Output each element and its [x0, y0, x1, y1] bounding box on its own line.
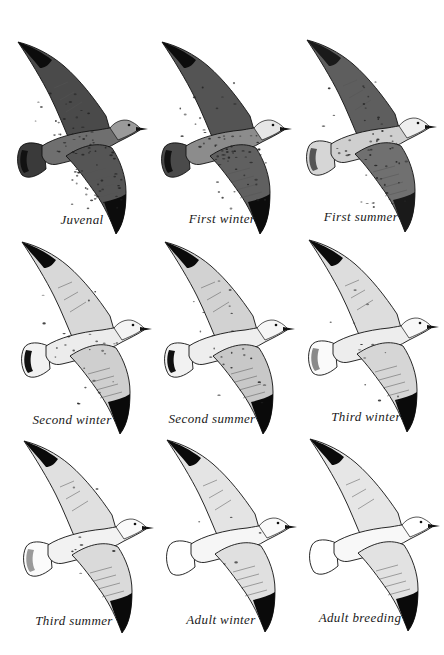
- plumage-caption: First winter: [189, 211, 256, 227]
- gull-illustration-second-summer: Second summer: [161, 238, 306, 438]
- plumage-caption: First summer: [324, 209, 399, 225]
- gull-silhouette-icon: [303, 36, 444, 236]
- gull-illustration-juvenal: Juvenal: [14, 38, 159, 238]
- gull-silhouette-icon: [158, 38, 303, 238]
- gull-illustration-adult-breeding: Adult breeding: [306, 435, 444, 635]
- gull-illustration-adult-winter: Adult winter: [163, 436, 308, 636]
- plumage-caption: Third summer: [35, 613, 113, 629]
- gull-illustration-third-winter: Third winter: [305, 236, 444, 436]
- gull-silhouette-icon: [305, 236, 444, 436]
- plumage-caption: Adult winter: [186, 612, 255, 628]
- gull-silhouette-icon: [161, 238, 306, 438]
- gull-silhouette-icon: [18, 238, 163, 438]
- gull-silhouette-icon: [163, 436, 308, 636]
- gull-silhouette-icon: [306, 435, 444, 635]
- gull-silhouette-icon: [14, 38, 159, 238]
- plumage-caption: Adult breeding: [319, 610, 402, 626]
- plumage-caption: Juvenal: [60, 212, 103, 228]
- gull-illustration-first-winter: First winter: [158, 38, 303, 238]
- gull-silhouette-icon: [20, 437, 165, 637]
- plumage-caption: Third winter: [331, 409, 401, 425]
- plumage-caption: Second winter: [32, 412, 111, 428]
- plumage-caption: Second summer: [168, 411, 255, 427]
- gull-illustration-second-winter: Second winter: [18, 238, 163, 438]
- gull-illustration-third-summer: Third summer: [20, 437, 165, 637]
- gull-illustration-first-summer: First summer: [303, 36, 444, 236]
